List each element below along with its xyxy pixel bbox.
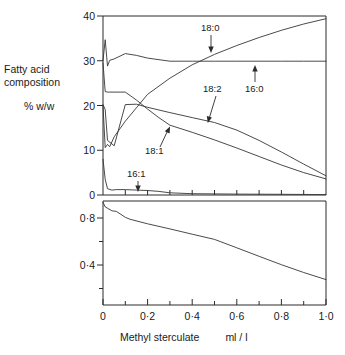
- lower-panel-frame: [103, 201, 326, 305]
- figure-container: Fatty acid composition % w/w Methyl ster…: [0, 0, 345, 355]
- annotation-label-16-1: 16:1: [127, 168, 146, 179]
- lower-panel-x-ticks: [103, 299, 326, 305]
- ytick-label-20: 20: [83, 100, 95, 112]
- curve-16-0: [103, 40, 326, 66]
- upper-panel-y-ticks: [97, 16, 103, 195]
- xtick-label-06: 0·6: [229, 310, 244, 322]
- xtick-label-02: 0·2: [140, 310, 155, 322]
- annotation-label-18-0: 18:0: [201, 22, 220, 33]
- chart-svg: 40 30 20 10 0 18:0 16:0 18:2: [0, 0, 345, 355]
- ytick-label-40: 40: [83, 10, 95, 22]
- annotation-label-18-2: 18:2: [203, 83, 222, 94]
- lower-ytick-label-04: 0·4: [80, 259, 95, 271]
- lower-panel-y-ticks: [97, 218, 103, 289]
- ytick-label-10: 10: [83, 144, 95, 156]
- xtick-label-08: 0·8: [274, 310, 289, 322]
- annotation-arrow-18-1: [160, 127, 170, 148]
- xtick-label-04: 0·4: [185, 310, 200, 322]
- annotation-label-18-1: 18:1: [145, 145, 164, 156]
- xtick-label-0: 0: [100, 310, 106, 322]
- ytick-label-30: 30: [83, 55, 95, 67]
- annotation-arrow-18-2: [207, 96, 216, 123]
- annotation-arrow-16-0: [252, 65, 257, 82]
- ytick-label-0: 0: [89, 189, 95, 201]
- annotation-arrow-18-0: [208, 35, 213, 53]
- xtick-label-10: 1·0: [318, 310, 333, 322]
- curve-18-1: [103, 63, 326, 179]
- curve-lower-trace: [103, 202, 326, 279]
- lower-ytick-label-08: 0·8: [80, 212, 95, 224]
- annotation-label-16-0: 16:0: [245, 83, 264, 94]
